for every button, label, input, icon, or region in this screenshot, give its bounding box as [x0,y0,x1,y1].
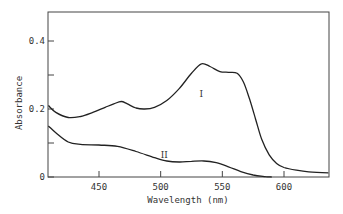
x-tick-label: 550 [214,182,230,192]
curve-i [48,63,328,172]
curves [48,63,328,177]
x-tick-label: 500 [153,182,169,192]
curve-label-i: I [200,89,204,99]
x-tick-label: 450 [91,182,107,192]
y-tick-label: 0.2 [29,104,45,114]
plot-frame [48,12,329,177]
y-axis: 00.20.4 [29,36,54,182]
curve-label-ii: II [161,150,169,160]
y-tick-label: 0 [40,172,45,182]
y-axis-label: Absorbance [14,76,24,130]
x-axis: 450500550600 [91,171,292,192]
absorbance-spectrum-chart: 00.20.4 450500550600 III Wavelength (nm)… [0,0,343,214]
x-axis-label: Wavelength (nm) [147,195,228,205]
y-tick-label: 0.4 [29,36,45,46]
x-tick-label: 600 [276,182,292,192]
